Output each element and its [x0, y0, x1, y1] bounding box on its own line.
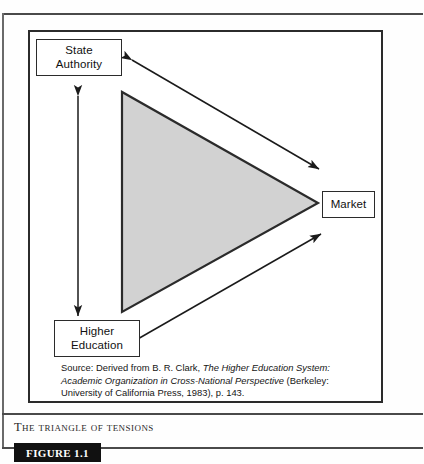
figure-number-badge: FIGURE 1.1 [14, 443, 101, 462]
source-note: Source: Derived from B. R. Clark, The Hi… [61, 362, 367, 400]
shaded-triangle [122, 92, 318, 312]
node-higher-education: Higher Education [54, 320, 140, 357]
node-state-authority: State Authority [36, 39, 122, 76]
page-rule-top [2, 13, 423, 15]
node-state-authority-line-2: Authority [56, 58, 102, 72]
source-note-prefix: Source: Derived from B. R. Clark, [61, 362, 203, 373]
figure-caption: The Triangle of Tensions [14, 420, 154, 435]
figure-page: State Authority Market Higher Education … [0, 0, 424, 464]
node-higher-education-line-1: Higher [80, 325, 114, 339]
node-state-authority-line-1: State [65, 44, 92, 58]
node-market: Market [322, 191, 375, 218]
page-rule-middle [2, 413, 423, 415]
page-frame-left [2, 13, 4, 448]
node-higher-education-line-2: Education [71, 339, 123, 353]
node-market-label: Market [331, 198, 367, 212]
